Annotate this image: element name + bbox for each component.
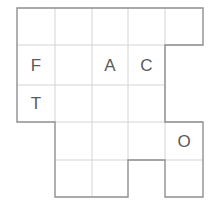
cell-letter-r1c2[interactable]: A xyxy=(92,45,128,85)
puzzle-canvas: F A C T O xyxy=(0,0,213,211)
cell-letter-r2c0[interactable]: T xyxy=(17,85,55,122)
cell-letter-r1c3[interactable]: C xyxy=(128,45,165,85)
cell-letter-r1c0[interactable]: F xyxy=(17,45,55,85)
cell-letter-r3c4[interactable]: O xyxy=(165,122,203,160)
